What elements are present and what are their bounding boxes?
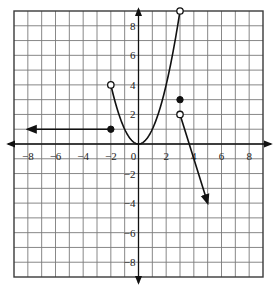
open-endpoint [177,8,183,14]
y-tick-label: −8 [124,256,136,268]
y-tick-label: 8 [130,20,136,32]
piecewise-function-graph: −8−6−4−202468−8−6−4−22468 [0,0,275,287]
x-tick-label: 2 [163,150,169,162]
closed-endpoint [108,126,114,132]
x-tick-label: 8 [246,150,252,162]
open-endpoint [108,82,114,88]
x-tick-label: −8 [22,150,34,162]
axes [8,9,271,283]
x-tick-label: −6 [50,150,62,162]
y-tick-label: −2 [124,168,136,180]
x-tick-label: −4 [77,150,89,162]
y-tick-label: 6 [130,49,136,61]
x-tick-label: 6 [219,150,225,162]
parabola [111,11,180,144]
y-tick-label: −4 [124,197,136,209]
y-tick-label: −6 [124,227,136,239]
x-tick-label: −2 [105,150,117,162]
x-tick-label: 0 [131,150,137,162]
open-endpoint [177,111,183,117]
isolated-point [177,96,183,102]
y-tick-label: 2 [130,108,136,120]
y-tick-label: 4 [130,79,136,91]
